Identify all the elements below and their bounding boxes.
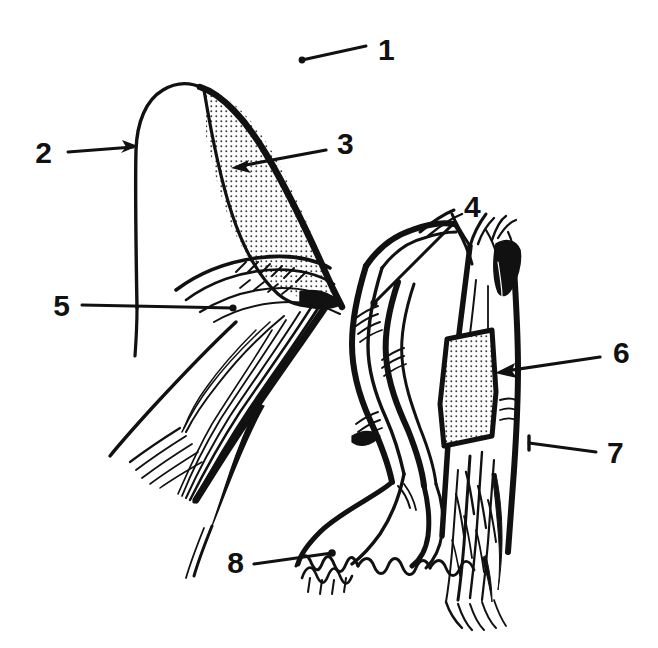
label-6-number: 6 <box>613 336 630 369</box>
label-2-number: 2 <box>35 136 52 169</box>
label-8-dot <box>328 549 336 557</box>
line-drawing-canvas: 1 2 3 4 5 6 <box>0 0 658 648</box>
label-1-number: 1 <box>378 33 395 66</box>
label-3-number: 3 <box>337 127 354 160</box>
label-7-number: 7 <box>607 436 624 469</box>
label-8-number: 8 <box>227 546 244 579</box>
figure-container: 1 2 3 4 5 6 <box>0 0 658 648</box>
label-5-dot <box>229 304 236 311</box>
label-4-dot <box>370 299 377 306</box>
label-1-dot <box>299 57 306 64</box>
label-5-number: 5 <box>53 289 70 322</box>
label-4-number: 4 <box>464 190 481 223</box>
